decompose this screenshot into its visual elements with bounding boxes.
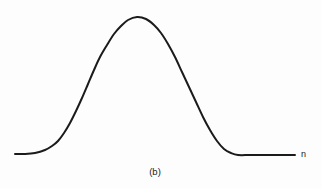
bell-curve-plot <box>0 0 322 189</box>
figure-container: n (b) <box>0 0 322 189</box>
plot-background <box>0 0 322 189</box>
figure-caption: (b) <box>0 167 310 177</box>
x-axis-label: n <box>301 150 306 159</box>
